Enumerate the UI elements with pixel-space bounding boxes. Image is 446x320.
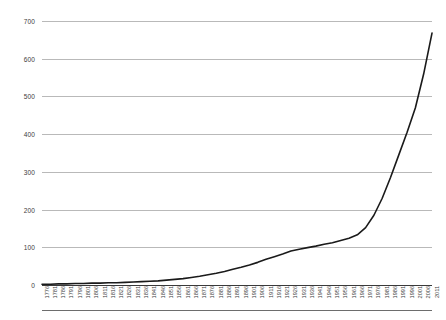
x-tick-label: 1956: [342, 286, 348, 298]
x-tick-label: 1931: [301, 286, 307, 298]
x-tick-label: 1806: [93, 286, 99, 298]
bottom-rule: [42, 310, 432, 311]
x-tick-label: 1981: [384, 286, 390, 298]
x-tick-label: 1886: [226, 286, 232, 298]
x-tick-label: 1801: [85, 286, 91, 298]
x-tick-label: 1941: [317, 286, 323, 298]
plot-area: [42, 21, 432, 285]
x-tick-label: 1831: [135, 286, 141, 298]
x-tick-label: 1846: [160, 286, 166, 298]
x-tick-label: 1776: [44, 286, 50, 298]
y-tick-label: 200: [24, 206, 35, 213]
x-tick-label: 1926: [292, 286, 298, 298]
x-tick-label: 1866: [193, 286, 199, 298]
x-tick-label: 1901: [251, 286, 257, 298]
x-tick-label: 1996: [409, 286, 415, 298]
x-tick-label: 1871: [201, 286, 207, 298]
line-chart: 0100200300400500600700 17761781178617911…: [0, 0, 446, 320]
x-tick-label: 1851: [168, 286, 174, 298]
x-tick-label: 1796: [77, 286, 83, 298]
y-tick-label: 400: [24, 131, 35, 138]
y-tick-label: 500: [24, 93, 35, 100]
y-axis: 0100200300400500600700: [0, 0, 42, 320]
y-tick-label: 600: [24, 55, 35, 62]
x-tick-label: 1896: [243, 286, 249, 298]
x-tick-label: 2006: [425, 286, 431, 298]
x-tick-label: 1856: [176, 286, 182, 298]
series-line: [42, 21, 432, 285]
x-tick-label: 1826: [126, 286, 132, 298]
x-tick-label: 1841: [151, 286, 157, 298]
x-tick-label: 2011: [434, 286, 440, 298]
x-tick-label: 1811: [102, 286, 108, 298]
x-tick-label: 1951: [334, 286, 340, 298]
x-tick-label: 2001: [417, 286, 423, 298]
x-tick-label: 1816: [110, 286, 116, 298]
x-tick-label: 1966: [359, 286, 365, 298]
x-tick-label: 1881: [218, 286, 224, 298]
x-tick-label: 1936: [309, 286, 315, 298]
y-tick-label: 0: [31, 282, 35, 289]
x-axis: 1776178117861791179618011806181118161821…: [42, 286, 432, 320]
x-tick-label: 1916: [276, 286, 282, 298]
x-tick-label: 1891: [234, 286, 240, 298]
data-line: [42, 33, 432, 284]
x-tick-label: 1861: [185, 286, 191, 298]
x-tick-label: 1991: [400, 286, 406, 298]
y-tick-label: 300: [24, 168, 35, 175]
x-tick-label: 1986: [392, 286, 398, 298]
x-tick-label: 1946: [326, 286, 332, 298]
y-tick-label: 100: [24, 244, 35, 251]
x-tick-label: 1921: [284, 286, 290, 298]
x-tick-label: 1836: [143, 286, 149, 298]
x-tick-label: 1876: [209, 286, 215, 298]
x-tick-label: 1786: [60, 286, 66, 298]
x-tick-label: 1961: [351, 286, 357, 298]
x-tick-label: 1971: [367, 286, 373, 298]
x-tick-label: 1976: [375, 286, 381, 298]
y-tick-label: 700: [24, 18, 35, 25]
x-tick-label: 1911: [268, 286, 274, 298]
x-tick-label: 1906: [259, 286, 265, 298]
x-tick-label: 1791: [68, 286, 74, 298]
x-tick-label: 1781: [52, 286, 58, 298]
x-tick-label: 1821: [118, 286, 124, 298]
